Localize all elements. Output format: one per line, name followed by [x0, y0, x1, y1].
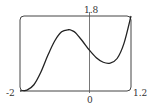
x-min-label: -2	[6, 89, 15, 98]
y-max-label: 1.8	[84, 6, 98, 15]
chart	[0, 0, 149, 107]
function-curve	[20, 16, 131, 91]
x-max-label: 1.2	[133, 89, 147, 98]
x-origin-label: 0	[87, 96, 93, 105]
